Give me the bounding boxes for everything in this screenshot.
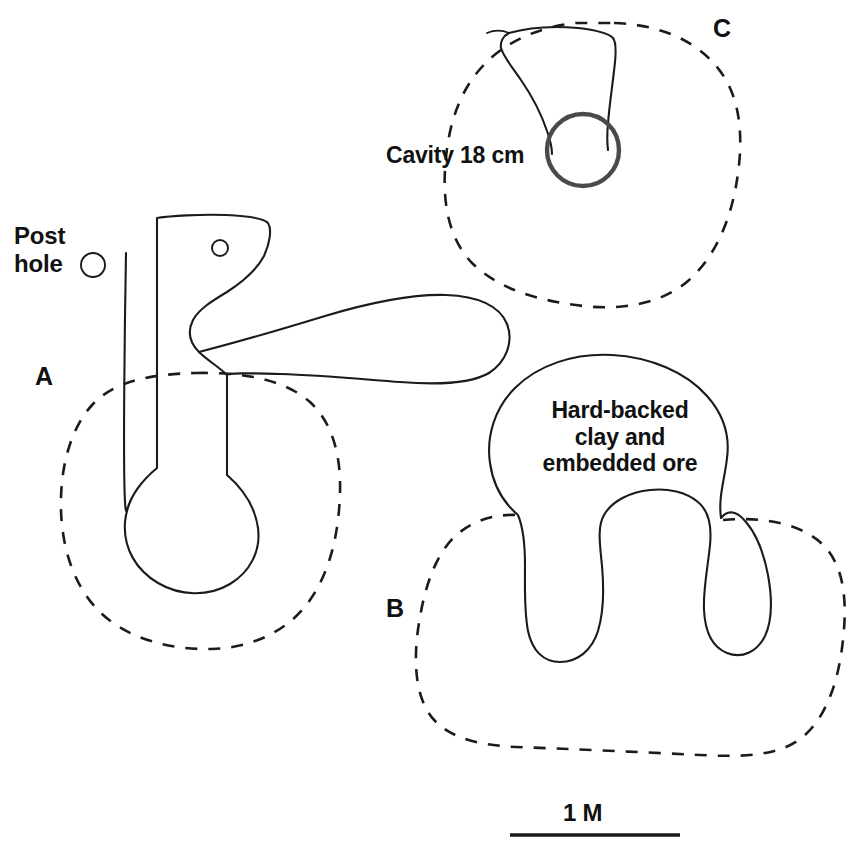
feature-b-letter: B [386,594,404,623]
cavity-dimension-label: Cavity 18 cm [386,142,524,169]
scale-bar-label: 1 M [563,799,602,827]
feature-a-furnace-bowl [124,253,258,593]
post-hole-label: Post hole [14,222,65,278]
site-plan-figure: Post hole Cavity 18 cm Hard-backed clay … [0,0,856,858]
flue-upper-edge [199,295,510,373]
feature-a-group [61,215,340,649]
feature-c-inner-structure [501,27,616,154]
hard-backed-clay-label: Hard-backed clay and embedded ore [524,397,716,477]
flue-lower-edge [227,373,489,383]
feature-a-dashed-boundary [61,373,340,649]
feature-b-dashed-boundary [416,515,845,756]
small-post-hole-icon [212,240,228,256]
feature-a-letter: A [35,362,53,391]
flue-channel-group [199,295,510,384]
site-plan-drawing [0,0,856,858]
feature-c-letter: C [713,14,731,43]
feature-a-upper-chamber [157,215,270,375]
feature-c-inner-top-left-tick [487,31,509,33]
post-hole-key-icon [81,253,105,277]
